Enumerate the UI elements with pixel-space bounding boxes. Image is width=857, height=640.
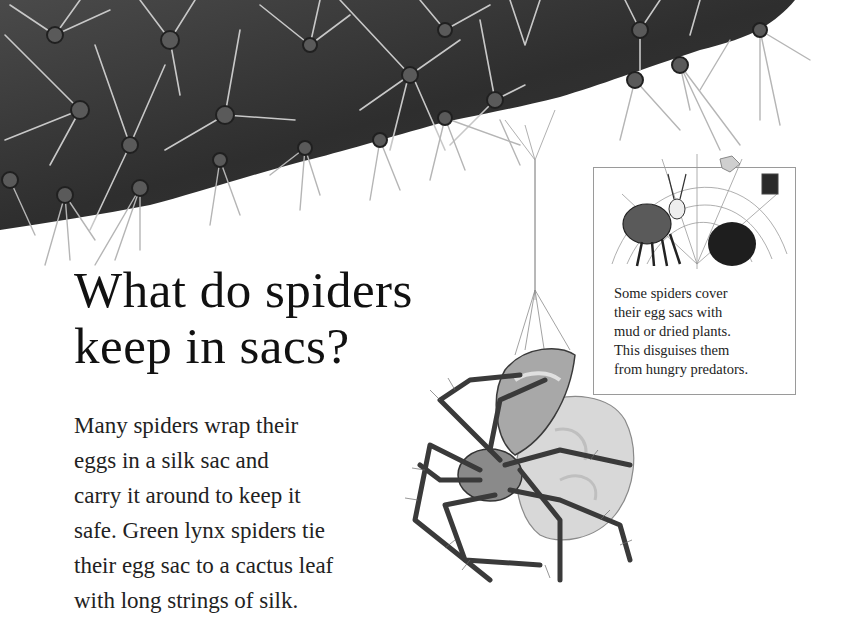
caption-line: from hungry predators. (614, 360, 794, 379)
caption-line: This disguises them (614, 341, 794, 360)
body-line: Many spiders wrap their (74, 408, 404, 443)
caption-line: their egg sacs with (614, 303, 794, 322)
page-heading: What do spiders keep in sacs? (74, 262, 413, 374)
body-line: carry it around to keep it (74, 478, 404, 513)
body-line: with long strings of silk. (74, 583, 404, 618)
info-box: Some spiders cover their egg sacs with m… (593, 167, 796, 395)
cartoon-spider-mud-sac-illustration (602, 154, 792, 274)
caption-line: mud or dried plants. (614, 322, 794, 341)
caption-line: Some spiders cover (614, 284, 794, 303)
heading-line: What do spiders (74, 262, 413, 318)
body-paragraph: Many spiders wrap their eggs in a silk s… (74, 408, 404, 618)
info-box-caption: Some spiders cover their egg sacs with m… (614, 284, 794, 379)
body-line: eggs in a silk sac and (74, 443, 404, 478)
heading-line: keep in sacs? (74, 318, 413, 374)
body-line: safe. Green lynx spiders tie (74, 513, 404, 548)
body-line: their egg sac to a cactus leaf (74, 548, 404, 583)
